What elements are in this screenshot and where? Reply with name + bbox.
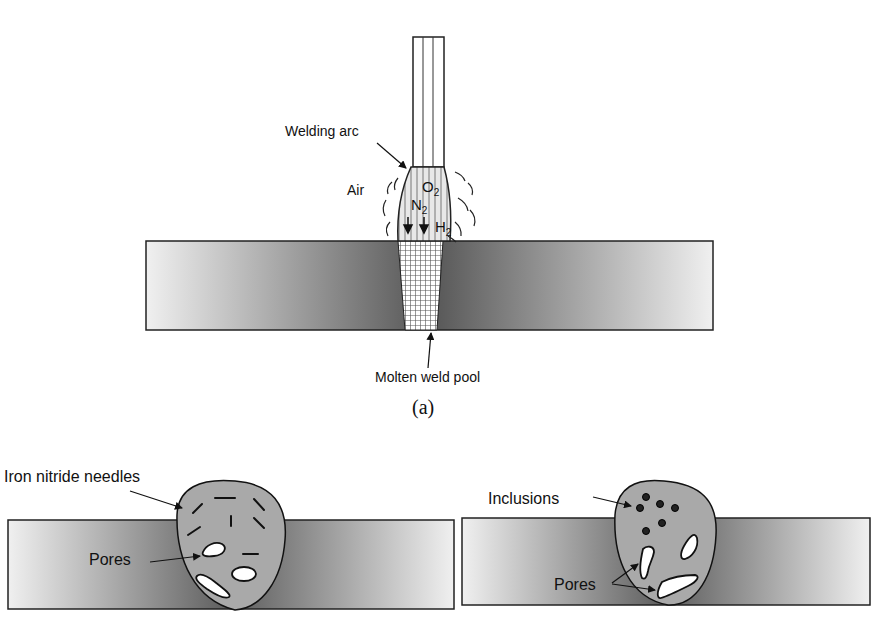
pores-label-c: Pores [554, 576, 596, 593]
air-label: Air [347, 182, 364, 198]
welding-diagram: O2 N2 H2 Welding arc Air Molten weld poo… [0, 0, 886, 617]
panel-a: O2 N2 H2 Welding arc Air Molten weld poo… [146, 37, 713, 419]
welding-arc-arrow [377, 143, 406, 168]
inclusions-label: Inclusions [488, 490, 559, 507]
pores-label-b: Pores [89, 551, 131, 568]
needles-label: Iron nitride needles [4, 468, 140, 485]
caption-a: (a) [412, 396, 434, 419]
welding-arc-label: Welding arc [285, 123, 359, 139]
molten-pool-arrow [428, 333, 431, 368]
panel-b: Iron nitride needles Pores [4, 468, 454, 610]
panel-c: Inclusions Pores [462, 480, 870, 605]
electrode-rod [413, 37, 444, 167]
molten-pool-label: Molten weld pool [375, 369, 480, 385]
needles-arrow [130, 491, 182, 508]
molten-weld-pool [398, 241, 443, 330]
